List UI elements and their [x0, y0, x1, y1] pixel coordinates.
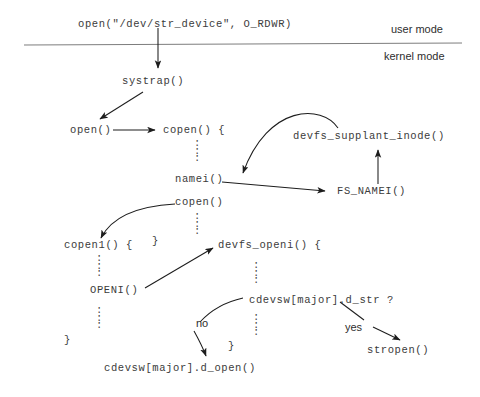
copen-tail-ellipsis: ::: [194, 213, 200, 236]
copen-close-brace: } [152, 236, 158, 247]
arrow-systrap-to-open [100, 92, 143, 119]
cdevsw-open-label: cdevsw[major].d_open() [104, 363, 256, 374]
copen1-body-ellipsis: ::: [96, 255, 102, 278]
syscall-label: open("/dev/str_device", O_RDWR) [78, 19, 292, 30]
copen-open-label: copen() { [163, 125, 225, 136]
devfs-openi-open-label: devfs_openi() { [218, 240, 322, 251]
devfs-openi-tail-ellipsis: ::: [253, 314, 259, 337]
arrow-yes-to-stropen [373, 327, 400, 340]
open-label: open() [70, 125, 111, 136]
edge-label-yes: yes [345, 322, 362, 333]
cdevsw-condition-label: cdevsw[major].d_str ? [249, 295, 394, 306]
copen1-close-brace: } [64, 335, 70, 346]
arrow-openi-to-devfs-openi [145, 248, 213, 288]
user-mode-label: user mode [391, 24, 443, 35]
mode-divider-line [24, 43, 462, 45]
arrow-copen-to-copen1 [101, 204, 175, 238]
arrow-namei-to-fs-namei [222, 182, 325, 191]
devfs-openi-close-brace: } [228, 341, 234, 352]
copen1-tail-ellipsis: ::: [96, 307, 102, 330]
diagram-canvas: open("/dev/str_device", O_RDWR) user mod… [0, 0, 480, 397]
systrap-label: systrap() [122, 76, 184, 87]
copen1-open-label: copen1() { [64, 240, 133, 251]
arrow-no-to-cdevsw-open [194, 331, 206, 356]
copen-call-label: copen() [175, 197, 223, 208]
copen-body-ellipsis: ::: [194, 140, 200, 163]
openi-label: OPENI() [90, 285, 138, 296]
devfs-supplant-inode-label: devfs_supplant_inode() [293, 131, 445, 142]
stropen-label: stropen() [367, 345, 429, 356]
arrow-devfs-supplant-to-namei [243, 113, 338, 173]
edge-label-no: no [196, 318, 208, 329]
kernel-mode-label: kernel mode [384, 51, 445, 62]
devfs-openi-body-ellipsis: ::: [253, 262, 259, 285]
namei-label: namei() [175, 174, 223, 185]
fs-namei-label: FS_NAMEI() [337, 186, 406, 197]
